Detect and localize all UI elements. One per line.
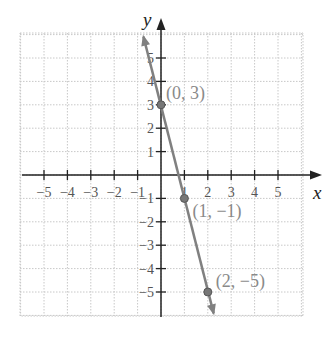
x-axis-label: x (312, 182, 322, 203)
y-tick-label: 3 (147, 98, 154, 113)
arrow-down-icon (207, 304, 216, 316)
x-tick-label: −4 (60, 185, 75, 200)
y-tick-label: −1 (139, 191, 154, 206)
y-tick-label: −2 (139, 215, 154, 230)
data-point (204, 288, 212, 296)
x-axis-arrow-icon (310, 171, 322, 180)
y-tick-label: −5 (139, 285, 154, 300)
x-tick-label: 3 (228, 185, 235, 200)
x-tick-label: −2 (107, 185, 122, 200)
x-tick-label: 5 (275, 185, 282, 200)
point-label: (2, −5) (216, 271, 265, 292)
x-tick-label: 2 (204, 185, 211, 200)
line-graph: −5−4−3−2−112345−5−4−3−2−112345 (0, 3)(1,… (0, 0, 335, 337)
y-tick-label: 2 (147, 121, 154, 136)
x-tick-label: −5 (37, 185, 52, 200)
y-axis-arrow-icon (157, 18, 166, 30)
data-point (180, 194, 188, 202)
data-point (157, 101, 165, 109)
point-label: (1, −1) (192, 201, 241, 222)
y-tick-label: −4 (139, 262, 154, 277)
point-label: (0, 3) (166, 83, 205, 104)
arrow-up-icon (141, 35, 150, 47)
axes (22, 18, 322, 317)
y-tick-label: −3 (139, 238, 154, 253)
x-tick-label: −3 (83, 185, 98, 200)
y-tick-label: 1 (147, 145, 154, 160)
x-tick-label: 4 (251, 185, 258, 200)
y-axis-label: y (141, 9, 152, 30)
